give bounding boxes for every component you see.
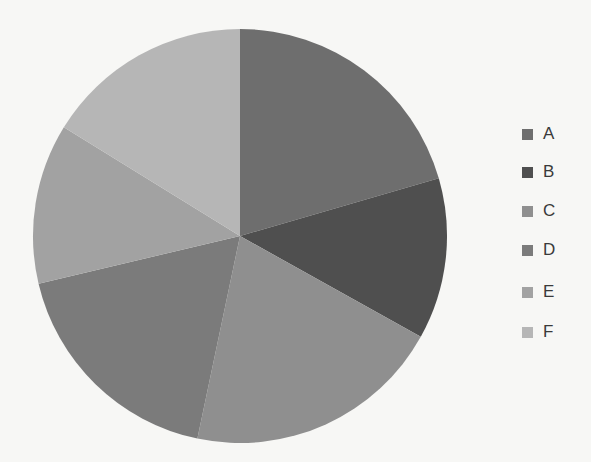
legend-label: F bbox=[543, 322, 553, 342]
legend-item-b: B bbox=[522, 162, 554, 182]
legend-item-c: C bbox=[522, 201, 555, 221]
legend-swatch-icon bbox=[522, 287, 533, 298]
legend-swatch-icon bbox=[522, 245, 533, 256]
legend-swatch-icon bbox=[522, 167, 533, 178]
legend-item-a: A bbox=[522, 124, 554, 144]
pie-plot-area bbox=[0, 0, 591, 462]
legend-swatch-icon bbox=[522, 129, 533, 140]
legend-label: C bbox=[543, 201, 555, 221]
pie-chart: A B C D E F bbox=[0, 0, 591, 462]
chart-legend: A B C D E F bbox=[522, 0, 582, 462]
legend-label: D bbox=[543, 240, 555, 260]
legend-item-e: E bbox=[522, 282, 554, 302]
legend-swatch-icon bbox=[522, 206, 533, 217]
legend-item-d: D bbox=[522, 240, 555, 260]
legend-item-f: F bbox=[522, 322, 553, 342]
legend-label: A bbox=[543, 124, 554, 144]
legend-label: B bbox=[543, 162, 554, 182]
legend-label: E bbox=[543, 282, 554, 302]
legend-swatch-icon bbox=[522, 327, 533, 338]
